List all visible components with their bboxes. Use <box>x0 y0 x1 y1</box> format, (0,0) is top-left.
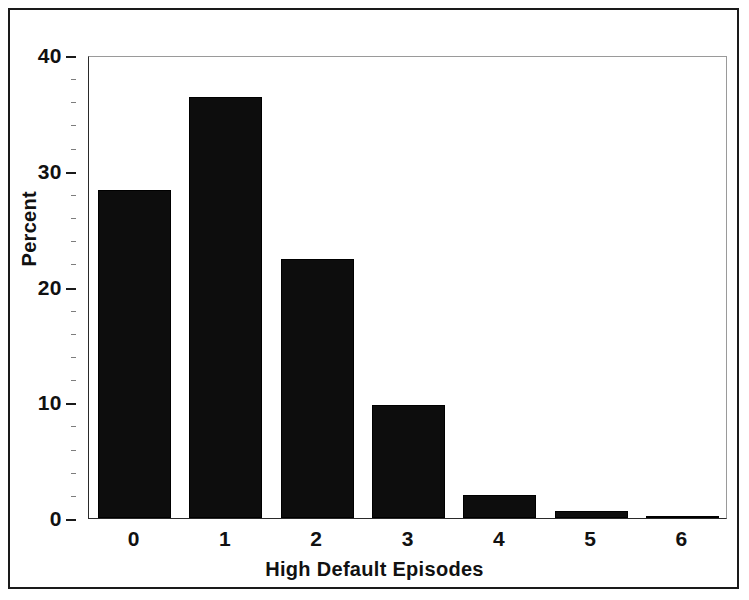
x-tick-label: 6 <box>676 527 688 551</box>
plot-area <box>88 56 727 519</box>
x-tick-label: 1 <box>219 527 231 551</box>
bar <box>98 190 171 518</box>
bar <box>646 516 719 518</box>
x-axis-title: High Default Episodes <box>0 558 749 581</box>
x-tick-label: 3 <box>402 527 414 551</box>
bar-series <box>89 57 726 518</box>
figure-canvas: Percent 010203040 0123456 High Default E… <box>0 0 749 600</box>
x-tick-label: 0 <box>128 527 140 551</box>
bar <box>463 495 536 518</box>
bar <box>555 511 628 518</box>
x-tick-label: 5 <box>584 527 596 551</box>
y-axis-title: Percent <box>18 237 41 267</box>
x-tick-label: 4 <box>493 527 505 551</box>
bar <box>189 97 262 518</box>
x-tick-label: 2 <box>310 527 322 551</box>
bar <box>281 259 354 518</box>
bar <box>372 405 445 518</box>
